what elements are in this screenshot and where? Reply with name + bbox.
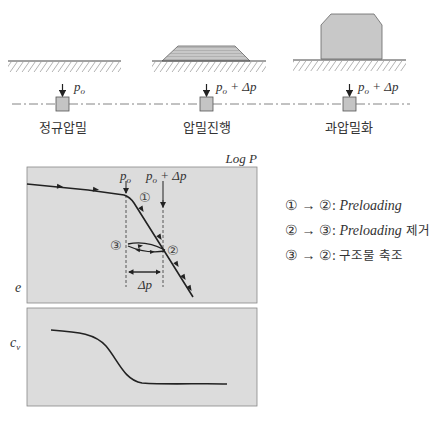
stage-label: 정규압밀 [39, 120, 87, 135]
point-3-label: ③ [110, 238, 122, 253]
pressure-label: po + Δp [215, 79, 257, 96]
ground-hatch [8, 62, 121, 72]
e-logp-chart: Log P e po po + Δp Δp ① ② ③ [15, 151, 257, 303]
embankment [162, 46, 250, 61]
soil-element [343, 97, 356, 111]
pressure-label: po [73, 79, 86, 96]
x-axis-label: Log P [225, 151, 257, 166]
legend-item: ① → ②: Preloading [285, 193, 430, 218]
ground-hatch [293, 61, 406, 71]
pressure-label: po + Δp [357, 79, 399, 96]
y-axis-label: e [15, 280, 21, 295]
soil-element [56, 97, 69, 111]
po-dp-label: po + Δp [145, 168, 187, 185]
soil-element [200, 97, 213, 111]
point-2-label: ② [167, 243, 179, 258]
structure-block [321, 14, 382, 59]
cv-chart: cv [10, 308, 257, 406]
stage-overconsolidation [293, 14, 406, 111]
stage-label: 압밀진행 [183, 120, 231, 135]
legend-item: ② → ③: Preloading 제거 [285, 218, 430, 243]
stage-normal-consolidation [8, 61, 121, 111]
point-1-label: ① [139, 190, 151, 205]
legend-item: ③ → ②: 구조물 축조 [285, 243, 430, 268]
y-axis-label: cv [10, 335, 20, 352]
legend: ① → ②: Preloading ② → ③: Preloading 제거 ③… [285, 193, 430, 268]
ground-hatch [152, 62, 266, 72]
delta-p-label: Δp [137, 277, 153, 292]
stage-label: 과압밀화 [325, 120, 373, 135]
chart-panel [27, 308, 257, 406]
